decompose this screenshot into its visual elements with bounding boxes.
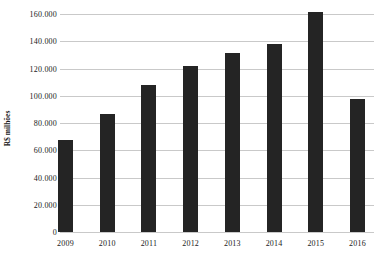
bar-2012	[183, 66, 198, 232]
x-tick-label-2009: 2009	[46, 239, 86, 248]
bar-2016	[350, 99, 365, 233]
bar-2014	[267, 44, 282, 232]
x-tick-label-2010: 2010	[87, 239, 127, 248]
x-tick-label-2011: 2011	[129, 239, 169, 248]
y-tick-label-120000: 120.000	[0, 65, 57, 74]
gridline-100000	[60, 96, 374, 97]
y-tick-label-100000: 100.000	[0, 92, 57, 101]
x-tick-label-2015: 2015	[296, 239, 336, 248]
y-tick-label-160000: 160.000	[0, 10, 57, 19]
bar-chart: R$ milhões 020.00040.00060.00080.000100.…	[0, 0, 381, 258]
gridline-120000	[60, 69, 374, 70]
x-tick-label-2012: 2012	[171, 239, 211, 248]
y-tick-label-40000: 40.000	[0, 174, 57, 183]
bar-2010	[100, 114, 115, 233]
y-tick-label-60000: 60.000	[0, 146, 57, 155]
bar-2013	[225, 53, 240, 233]
gridline-140000	[60, 41, 374, 42]
y-tick-label-80000: 80.000	[0, 119, 57, 128]
y-tick-label-0: 0	[0, 228, 57, 237]
y-tick-label-140000: 140.000	[0, 37, 57, 46]
y-tick-label-20000: 20.000	[0, 201, 57, 210]
bar-2011	[141, 85, 156, 232]
bar-2009	[58, 140, 73, 233]
x-tick-label-2016: 2016	[338, 239, 378, 248]
gridline-160000	[60, 14, 374, 15]
x-tick-label-2013: 2013	[212, 239, 252, 248]
x-tick-label-2014: 2014	[254, 239, 294, 248]
bar-2015	[308, 12, 323, 233]
